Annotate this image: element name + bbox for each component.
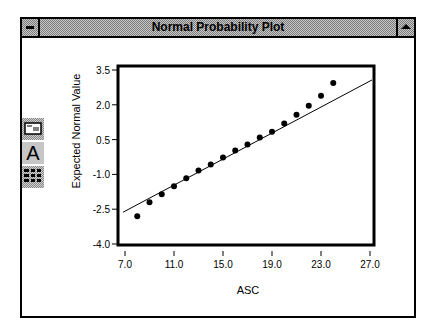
x-tick-label: 23.0 xyxy=(311,259,331,270)
y-tick-label: 2.0 xyxy=(96,100,110,111)
data-point xyxy=(183,175,189,181)
y-tick-label: 0.5 xyxy=(96,135,110,146)
data-point xyxy=(257,135,263,141)
data-point xyxy=(196,167,202,173)
x-tick-label: 7.0 xyxy=(118,259,132,270)
data-point xyxy=(306,103,312,109)
data-point xyxy=(330,80,336,86)
normal-probability-chart: 3.52.00.5-1.0-2.5-4.07.011.015.019.023.0… xyxy=(0,0,430,333)
data-point xyxy=(232,148,238,154)
data-point xyxy=(134,213,140,219)
data-point xyxy=(147,199,153,205)
y-axis-label: Expected Normal Value xyxy=(70,74,82,189)
y-tick-label: -1.0 xyxy=(93,169,111,180)
data-point xyxy=(159,191,165,197)
data-point xyxy=(171,183,177,189)
data-point xyxy=(220,154,226,160)
y-tick-label: 3.5 xyxy=(96,65,110,76)
x-tick-label: 27.0 xyxy=(360,259,380,270)
data-point xyxy=(245,141,251,147)
data-point xyxy=(208,161,214,167)
data-point xyxy=(281,121,287,127)
data-point xyxy=(269,129,275,135)
y-tick-label: -2.5 xyxy=(93,204,111,215)
data-point xyxy=(294,112,300,118)
x-tick-label: 15.0 xyxy=(213,259,233,270)
data-point xyxy=(318,93,324,99)
x-axis-label: ASC xyxy=(237,284,260,296)
x-tick-label: 11.0 xyxy=(165,259,184,270)
x-tick-label: 19.0 xyxy=(262,259,282,270)
y-tick-label: -4.0 xyxy=(93,239,111,250)
plot-frame xyxy=(118,66,374,245)
